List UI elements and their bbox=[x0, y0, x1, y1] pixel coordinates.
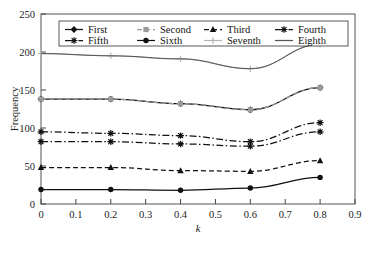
data-point-marker bbox=[177, 141, 184, 147]
x-tick-label: 0.3 bbox=[139, 209, 152, 220]
y-tick-label: 50 bbox=[25, 161, 36, 172]
data-point-marker bbox=[177, 132, 184, 138]
x-tick-label: 0.4 bbox=[174, 209, 188, 220]
data-point-marker bbox=[143, 27, 148, 32]
data-point-marker bbox=[281, 26, 288, 32]
data-point-marker bbox=[38, 97, 43, 102]
x-tick-label: 0.9 bbox=[348, 209, 361, 220]
chart-figure: 05010015020025000.10.20.30.40.50.60.70.8… bbox=[0, 0, 378, 254]
data-point-marker bbox=[317, 119, 324, 125]
data-point-marker bbox=[107, 130, 114, 136]
y-tick-label: 0 bbox=[30, 199, 35, 210]
data-point-marker bbox=[248, 107, 253, 112]
x-tick-label: 0.7 bbox=[279, 209, 292, 220]
legend-label: Sixth bbox=[160, 35, 183, 46]
data-point-marker bbox=[38, 187, 43, 192]
y-tick-label: 250 bbox=[19, 9, 35, 20]
legend-label: Eighth bbox=[298, 35, 327, 46]
y-tick-label: 100 bbox=[19, 123, 35, 134]
y-tick-label: 150 bbox=[19, 85, 35, 96]
y-axis-title: Frequency bbox=[9, 86, 20, 131]
data-point-marker bbox=[317, 129, 324, 135]
legend-label: Seventh bbox=[227, 35, 262, 46]
x-tick-label: 0.6 bbox=[244, 209, 257, 220]
legend-label: Fourth bbox=[298, 24, 327, 35]
legend-label: Second bbox=[160, 24, 192, 35]
x-tick-label: 0.8 bbox=[314, 209, 327, 220]
legend-label: Fifth bbox=[88, 35, 109, 46]
data-point-marker bbox=[178, 101, 183, 106]
x-tick-label: 0.5 bbox=[209, 209, 222, 220]
data-point-marker bbox=[317, 175, 322, 180]
x-tick-label: 0.1 bbox=[69, 209, 82, 220]
data-point-marker bbox=[38, 138, 45, 144]
data-point-marker bbox=[143, 38, 148, 43]
x-tick-label: 0.2 bbox=[104, 209, 117, 220]
x-tick-label: 0 bbox=[38, 209, 43, 220]
data-point-marker bbox=[107, 138, 114, 144]
data-point-marker bbox=[248, 185, 253, 190]
data-point-marker bbox=[108, 187, 113, 192]
data-point-marker bbox=[178, 188, 183, 193]
legend-label: Third bbox=[227, 24, 251, 35]
legend-label: First bbox=[88, 24, 107, 35]
data-point-marker bbox=[247, 143, 254, 149]
x-axis-title: k bbox=[196, 223, 201, 234]
data-point-marker bbox=[38, 129, 45, 135]
data-point-marker bbox=[318, 85, 323, 90]
line-chart: 05010015020025000.10.20.30.40.50.60.70.8… bbox=[0, 0, 378, 254]
data-point-marker bbox=[71, 37, 78, 43]
y-tick-label: 200 bbox=[19, 47, 35, 58]
data-point-marker bbox=[108, 97, 113, 102]
